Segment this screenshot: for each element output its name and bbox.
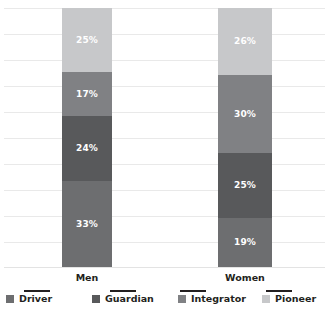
gridline (4, 242, 325, 243)
legend-swatch-icon (178, 295, 186, 303)
bar-men[interactable]: 25% 17% 24% 33% (62, 8, 112, 267)
bar-segment-women-integrator[interactable]: 30% (218, 75, 272, 153)
segment-value-label: 25% (234, 181, 256, 190)
legend-label: Integrator (191, 294, 246, 304)
legend-swatch-icon (262, 295, 270, 303)
legend-rule (110, 290, 136, 292)
legend-item-integrator[interactable]: Integrator (178, 294, 246, 304)
segment-value-label: 17% (76, 90, 98, 99)
y-gridlines (0, 0, 329, 276)
gridline (4, 138, 325, 139)
bar-segment-men-guardian[interactable]: 24% (62, 116, 112, 181)
segment-value-label: 33% (76, 220, 98, 229)
gridline (4, 216, 325, 217)
bar-segment-men-pioneer[interactable]: 25% (62, 8, 112, 72)
gridline (4, 8, 325, 9)
bar-women[interactable]: 26% 30% 25% 19% (218, 8, 272, 267)
segment-value-label: 24% (76, 144, 98, 153)
segment-value-label: 19% (234, 238, 256, 247)
legend-item-pioneer[interactable]: Pioneer (262, 294, 316, 304)
chart-legend: Driver Guardian Integrator Pioneer (0, 290, 329, 316)
gridline (4, 190, 325, 191)
plot-area: 25% 17% 24% 33% 26% 30% 25% 19 (0, 0, 329, 276)
stacked-bar-chart: 25% 17% 24% 33% 26% 30% 25% 19 (0, 0, 329, 316)
bar-segment-women-guardian[interactable]: 25% (218, 153, 272, 218)
legend-rule (180, 290, 206, 292)
segment-value-label: 26% (234, 37, 256, 46)
legend-swatch-icon (92, 295, 100, 303)
bar-segment-men-integrator[interactable]: 17% (62, 72, 112, 116)
gridline-baseline (4, 267, 325, 268)
legend-rule (266, 290, 292, 292)
bar-segment-women-pioneer[interactable]: 26% (218, 8, 272, 75)
gridline (4, 60, 325, 61)
legend-item-guardian[interactable]: Guardian (92, 294, 154, 304)
gridline (4, 34, 325, 35)
x-axis-label-women: Women (218, 272, 272, 283)
legend-rule (24, 290, 50, 292)
x-axis-label-men: Men (62, 272, 112, 283)
segment-value-label: 30% (234, 110, 256, 119)
bar-segment-men-driver[interactable]: 33% (62, 181, 112, 267)
legend-label: Guardian (105, 294, 154, 304)
legend-label: Driver (19, 294, 52, 304)
legend-swatch-icon (6, 295, 14, 303)
gridline (4, 164, 325, 165)
bar-segment-women-driver[interactable]: 19% (218, 218, 272, 267)
legend-item-driver[interactable]: Driver (6, 294, 52, 304)
segment-value-label: 25% (76, 36, 98, 45)
gridline (4, 86, 325, 87)
legend-label: Pioneer (275, 294, 316, 304)
gridline (4, 112, 325, 113)
